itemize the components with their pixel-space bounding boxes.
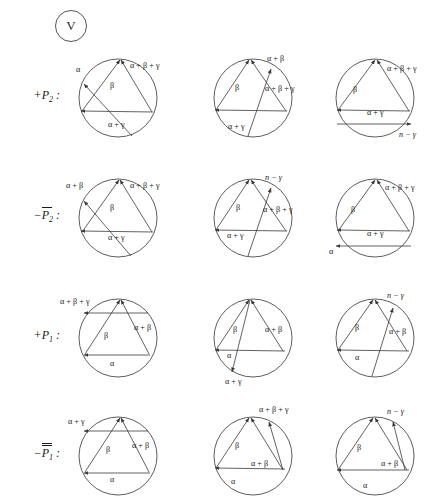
panel-r2c3: α + β + γ β α + γ α (325, 168, 431, 283)
label-r4c3-3: α (363, 481, 368, 490)
label-r4c3-2: α + β (381, 459, 398, 468)
label-r2c2-1: α + β + γ (263, 205, 293, 214)
label-r1c3-2: α + γ (367, 108, 384, 117)
label-r3c2-1: α + β (265, 325, 282, 334)
chord-beta (216, 180, 249, 230)
label-r4c2-1: β (235, 441, 239, 450)
label-r3c2-2: α (227, 351, 232, 360)
label-r4c2-3: α (231, 477, 236, 486)
chord-alpha-beta (84, 201, 131, 256)
label-r3c1-0: α + β + γ (60, 297, 90, 306)
panel-r2c1: α + β α + β + γ β α + γ (68, 168, 178, 278)
label-r1c2-0: α + β (267, 54, 284, 63)
label-r2c1-1: α + β + γ (130, 181, 160, 190)
label-r4c3-1: β (357, 443, 361, 452)
label-r4c1-3: α (110, 475, 115, 484)
row-label-colon: : (56, 328, 60, 342)
chord-alpha (215, 350, 285, 351)
circle-outline (79, 299, 157, 377)
v-badge: V (55, 10, 87, 42)
label-r3c1-1: β (104, 331, 108, 340)
label-r4c1-1: β (106, 445, 110, 454)
chord-alpha-beta (375, 300, 407, 351)
label-r2c1-2: β (110, 203, 114, 212)
row-label-colon: : (56, 446, 60, 460)
panel-r4c1: α + γ β α + β α (68, 408, 178, 497)
row-label-colon: : (56, 208, 60, 222)
panel-r1c1: α α + β + γ β α + γ (68, 48, 178, 158)
panel-r1c3: α + β + γ β α + γ n − γ (325, 48, 431, 163)
chord-n-minus-gamma (372, 308, 393, 376)
panel-r3c1: α + β + γ β α + β α (68, 288, 178, 398)
panel-r4c2: α + β + γ β α + β α (203, 408, 313, 497)
label-r2c2-2: β (236, 203, 240, 212)
label-r4c2-0: α + β + γ (259, 405, 289, 414)
chord-alpha (215, 468, 285, 469)
label-r1c1-0: α (76, 65, 81, 74)
row-label-sign: + (34, 328, 42, 342)
row-label-plus-p1: +P1 : (8, 328, 60, 344)
chord-n-minus-gamma (248, 188, 271, 256)
panel-r4c3: n − γ β α + β α (325, 408, 431, 497)
label-r3c3-3: α (355, 353, 360, 362)
label-r2c3-2: α + γ (367, 229, 384, 238)
chord-beta (85, 300, 120, 354)
row-label-minus-p1bar: −P1 : (8, 446, 60, 462)
label-r2c2-0: n − γ (265, 173, 283, 182)
chord-alpha (337, 350, 409, 351)
label-r4c1-0: α + γ (68, 417, 85, 426)
chord-alpha-gamma (215, 230, 287, 231)
chord-alpha-gamma (81, 231, 153, 232)
chord-beta (82, 60, 120, 111)
row-label-variable: P2 (42, 208, 53, 224)
v-badge-label: V (66, 18, 75, 34)
chord-alpha-beta (248, 69, 271, 136)
circle-outline (214, 59, 292, 137)
chord-alpha-gamma (232, 300, 250, 372)
label-r2c1-3: α + γ (108, 233, 125, 242)
overbar (42, 207, 52, 208)
circle-outline (79, 179, 157, 257)
label-r2c3-3: α (329, 247, 334, 256)
row-label-variable: P1 (42, 328, 53, 344)
panel-r3c3: n − γ β α + β α (325, 288, 431, 403)
label-r1c3-3: n − γ (399, 130, 417, 139)
row-label-variable: P2 (42, 88, 53, 104)
chord-alpha-gamma (215, 110, 287, 111)
label-r1c3-0: α + β + γ (387, 64, 417, 73)
chord-alpha-gamma (81, 111, 153, 112)
label-r1c1-2: β (110, 81, 114, 90)
label-r2c3-0: α + β + γ (385, 183, 415, 192)
row-label-sign: − (34, 208, 42, 222)
label-r4c2-2: α + β (251, 459, 268, 468)
row-label-colon: : (56, 88, 60, 102)
panel-r3c2: β α + β α α + γ (203, 288, 313, 406)
row-label-sign: − (34, 446, 42, 460)
row-label-minus-p2bar: −P2 : (8, 208, 60, 224)
label-r3c3-2: α + β (389, 327, 406, 336)
overbar (42, 445, 52, 446)
circle-outline (214, 299, 292, 377)
chord-beta (85, 418, 120, 472)
label-r2c1-0: α + β (66, 181, 83, 190)
circle-outline (214, 179, 292, 257)
label-r3c1-2: α + β (134, 323, 151, 332)
label-r1c1-3: α + γ (108, 120, 125, 129)
label-r3c3-0: n − γ (387, 291, 405, 300)
chord-beta (338, 418, 373, 470)
label-r1c2-2: β (235, 83, 239, 92)
label-r4c3-0: n − γ (387, 407, 405, 416)
chord-beta (216, 418, 249, 468)
label-r3c2-0: β (233, 325, 237, 334)
circle-outline (79, 417, 157, 495)
label-r1c2-3: α + γ (228, 122, 245, 131)
label-r4c1-2: α + β (132, 441, 149, 450)
label-r2c2-3: α + γ (227, 231, 244, 240)
label-r1c2-1: α + β + γ (265, 84, 295, 93)
row-label-plus-p2: +P2 : (8, 88, 60, 104)
label-r3c1-3: α (110, 359, 115, 368)
label-r3c2-3: α + γ (225, 377, 242, 386)
circle-outline (214, 417, 292, 495)
row-label-sign: + (34, 88, 42, 102)
panel-r1c2: α + β α + β + γ β α + γ (203, 48, 313, 158)
